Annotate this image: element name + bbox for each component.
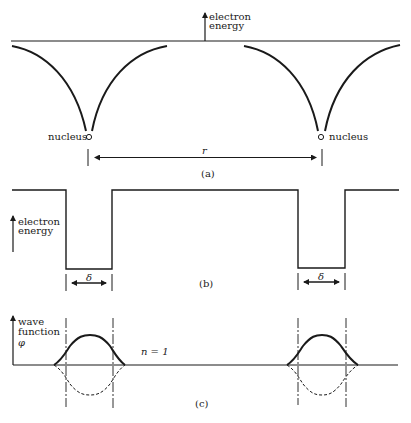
potential-curve-right-outer	[325, 45, 400, 131]
well-boundary-lines	[66, 318, 346, 409]
potential-curve-right-inner	[244, 46, 318, 131]
nucleus-right-icon	[318, 134, 323, 139]
wavefunction-left-negative	[54, 365, 125, 395]
panel-c: wave function φ n = 1 (c)	[13, 316, 398, 409]
nucleus-right-label: nucleus	[329, 131, 368, 142]
nucleus-left-label: nucleus	[48, 131, 87, 142]
potential-curve-left-outer	[12, 46, 86, 131]
potential-curve-left-inner	[92, 46, 167, 131]
caption-b: (b)	[199, 278, 213, 289]
nucleus-left-icon	[86, 134, 91, 139]
wavefunction-axis-label-2: function	[18, 326, 60, 337]
delta-left-label: δ	[86, 272, 92, 283]
panel-b: electron energy δ δ (b)	[12, 190, 399, 291]
diagram-canvas: electron energy nucleus nucleus r (a) el…	[0, 0, 411, 423]
r-label: r	[202, 145, 208, 156]
caption-c: (c)	[195, 398, 209, 409]
energy-axis-label-2: energy	[18, 225, 53, 236]
panel-a: electron energy nucleus nucleus r (a)	[11, 11, 400, 179]
phi-symbol: φ	[18, 337, 25, 348]
wavefunction-left-positive	[54, 335, 125, 365]
state-label: n = 1	[141, 346, 169, 357]
energy-axis-label-2: energy	[209, 20, 244, 31]
delta-right-label: δ	[318, 271, 324, 282]
square-well-potential	[12, 190, 399, 269]
caption-a: (a)	[201, 168, 215, 179]
